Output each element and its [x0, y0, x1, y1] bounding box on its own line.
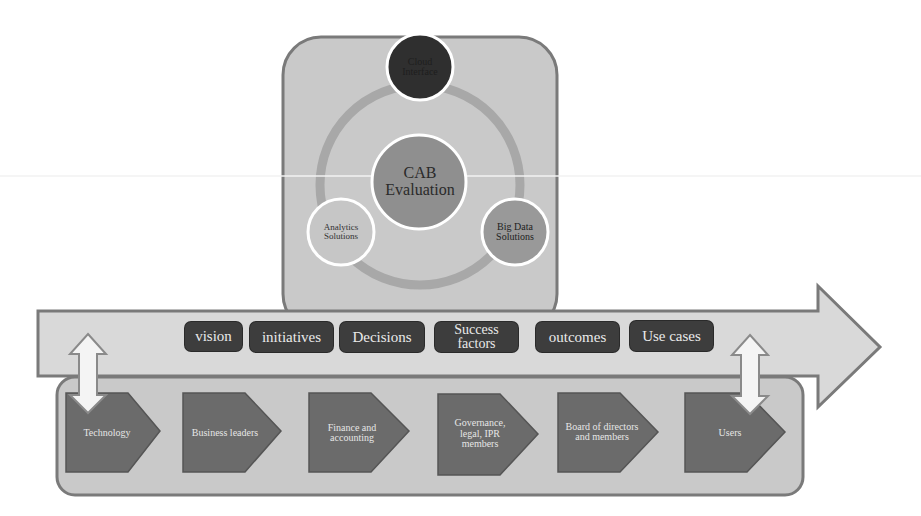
pill-outcomes: outcomes [536, 322, 619, 352]
stakeholder-users: Users [690, 418, 770, 448]
stakeholder-business-leaders: Business leaders [185, 418, 265, 448]
stakeholder-governance: Governance, legal, IPR members [444, 412, 516, 456]
stakeholder-board: Board of directors and members [562, 410, 642, 454]
pill-initiatives: initiatives [250, 322, 333, 352]
big-data-solutions-label: Big Data Solutions [488, 216, 542, 248]
analytics-solutions-label: Analytics Solutions [314, 216, 368, 248]
pill-vision: vision [185, 322, 242, 351]
cab-evaluation-label: CAB Evaluation [375, 160, 465, 204]
stakeholder-finance: Finance and accounting [310, 418, 394, 448]
cloud-interface-label: Cloud Interface [390, 52, 450, 82]
stakeholder-technology: Technology [66, 418, 148, 448]
pill-decisions: Decisions [340, 322, 424, 352]
pill-use-cases: Use cases [630, 321, 713, 351]
pill-success-factors: Success factors [435, 322, 518, 352]
